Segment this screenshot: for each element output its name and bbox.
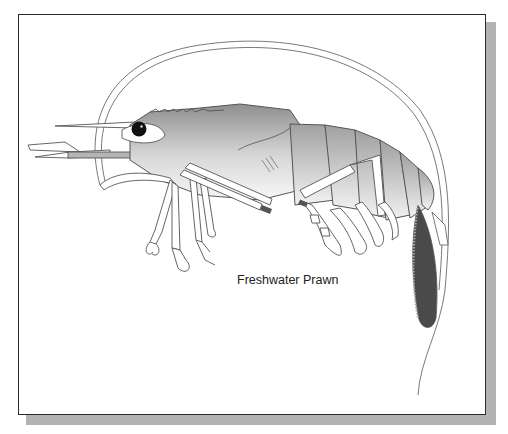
- prawn-illustration: [0, 0, 508, 434]
- diagram-caption: Freshwater Prawn: [237, 273, 338, 287]
- tail-fan: [413, 205, 448, 327]
